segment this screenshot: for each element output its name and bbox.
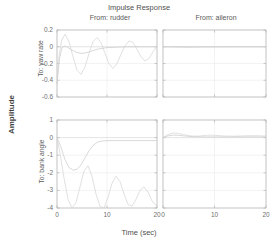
column-header-rudder: From: rudder [60, 14, 160, 21]
xtick-label-c1-1: 10 [207, 211, 223, 218]
subplot-r0-c0 [57, 30, 157, 97]
column-header-aileron: From: aileron [166, 14, 266, 21]
ytick-label-r1-4: -3 [27, 186, 53, 193]
ytick-label-r0-0: 0.2 [27, 26, 53, 33]
ytick-label-r0-3: -0.4 [27, 76, 53, 83]
xtick-label-c0-1: 10 [99, 211, 115, 218]
subplot-r1-c0 [57, 120, 157, 208]
y-axis-label: Amplitude [7, 80, 16, 150]
subplot-r1-c1 [163, 120, 266, 208]
ytick-label-r1-2: -1 [27, 151, 53, 158]
ytick-label-r1-1: 0 [27, 134, 53, 141]
ytick-label-r0-4: -0.6 [27, 93, 53, 100]
xtick-label-c1-0: 0 [155, 211, 171, 218]
ytick-label-r1-0: 1 [27, 116, 53, 123]
ytick-label-r1-3: -2 [27, 169, 53, 176]
chart-title: Impulse Response [0, 3, 278, 12]
ytick-label-r0-1: 0 [27, 43, 53, 50]
x-axis-label: Time (sec) [0, 228, 278, 237]
ytick-label-r0-2: -0.2 [27, 60, 53, 67]
ytick-label-r1-5: -4 [27, 204, 53, 211]
xtick-label-c1-2: 20 [258, 211, 274, 218]
subplot-r0-c1 [163, 30, 266, 97]
xtick-label-c0-0: 0 [49, 211, 65, 218]
